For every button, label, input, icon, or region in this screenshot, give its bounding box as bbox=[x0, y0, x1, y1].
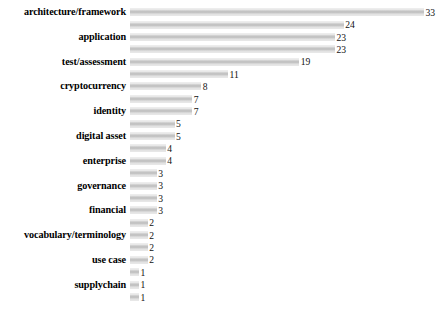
bar-value-label: 2 bbox=[149, 255, 154, 265]
bar bbox=[130, 46, 335, 53]
bar-row: cryptocurrency8 bbox=[0, 80, 444, 92]
bar-with-value: 5 bbox=[130, 132, 181, 139]
bar-value-label: 2 bbox=[149, 243, 154, 253]
bar-row: 24 bbox=[0, 18, 444, 30]
bar bbox=[130, 157, 166, 164]
bar bbox=[130, 269, 139, 276]
category-label: architecture/framework bbox=[24, 7, 126, 17]
bar-value-label: 7 bbox=[194, 106, 199, 116]
bar-value-label: 4 bbox=[167, 156, 172, 166]
bar-value-label: 2 bbox=[149, 218, 154, 228]
bar bbox=[130, 83, 201, 90]
bar-row: 3 bbox=[0, 167, 444, 179]
bar-value-label: 24 bbox=[345, 20, 355, 30]
bar-row: financial3 bbox=[0, 204, 444, 216]
bar-with-value: 3 bbox=[130, 194, 163, 201]
bar-row: 2 bbox=[0, 216, 444, 228]
bar bbox=[130, 21, 344, 28]
bar-value-label: 2 bbox=[149, 230, 154, 240]
bar bbox=[130, 95, 192, 102]
bar-value-label: 11 bbox=[230, 69, 239, 79]
bar bbox=[130, 58, 299, 65]
bar-with-value: 2 bbox=[130, 244, 154, 251]
bar-row: application23 bbox=[0, 31, 444, 43]
bar bbox=[130, 33, 335, 40]
bar bbox=[130, 108, 192, 115]
bar-with-value: 7 bbox=[130, 95, 199, 102]
bar-row: 4 bbox=[0, 142, 444, 154]
bar-row: 3 bbox=[0, 192, 444, 204]
bar-value-label: 5 bbox=[176, 131, 181, 141]
bar bbox=[130, 120, 175, 127]
bar-with-value: 23 bbox=[130, 46, 346, 53]
bar-value-label: 4 bbox=[167, 144, 172, 154]
bar-value-label: 8 bbox=[203, 82, 208, 92]
bar-value-label: 3 bbox=[158, 205, 163, 215]
horizontal-bar-chart: architecture/framework3324application232… bbox=[0, 0, 444, 313]
category-label: vocabulary/terminology bbox=[24, 230, 126, 240]
category-label: governance bbox=[77, 180, 126, 190]
bar-with-value: 3 bbox=[130, 170, 163, 177]
category-label: test/assessment bbox=[62, 57, 126, 67]
bar-row: 2 bbox=[0, 241, 444, 253]
bar bbox=[130, 182, 157, 189]
bar bbox=[130, 71, 228, 78]
bar-row: 23 bbox=[0, 43, 444, 55]
category-label: application bbox=[78, 32, 126, 42]
bar-with-value: 4 bbox=[130, 145, 172, 152]
bar bbox=[130, 293, 139, 300]
bar-row: supplychain1 bbox=[0, 278, 444, 290]
bar-value-label: 33 bbox=[426, 7, 436, 17]
bar-with-value: 1 bbox=[130, 269, 145, 276]
bar-with-value: 8 bbox=[130, 83, 208, 90]
bar bbox=[130, 256, 148, 263]
bar-value-label: 7 bbox=[194, 94, 199, 104]
bar bbox=[130, 170, 157, 177]
bar-value-label: 1 bbox=[140, 267, 145, 277]
bar-row: governance3 bbox=[0, 179, 444, 191]
bar-with-value: 23 bbox=[130, 33, 346, 40]
bar-row: enterprise4 bbox=[0, 155, 444, 167]
bar-with-value: 2 bbox=[130, 256, 154, 263]
bar bbox=[130, 207, 157, 214]
bar bbox=[130, 132, 175, 139]
bar-with-value: 2 bbox=[130, 219, 154, 226]
bar-value-label: 1 bbox=[140, 280, 145, 290]
bar-value-label: 19 bbox=[301, 57, 311, 67]
bar-row: 1 bbox=[0, 266, 444, 278]
bar-with-value: 24 bbox=[130, 21, 355, 28]
bar-row: 7 bbox=[0, 93, 444, 105]
bar-row: test/assessment19 bbox=[0, 56, 444, 68]
bar-with-value: 33 bbox=[130, 9, 435, 16]
bar-with-value: 3 bbox=[130, 182, 163, 189]
bar-row: use case2 bbox=[0, 254, 444, 266]
bar bbox=[130, 232, 148, 239]
bar-with-value: 1 bbox=[130, 293, 145, 300]
plot-area: architecture/framework3324application232… bbox=[0, 0, 444, 313]
bar-row: 1 bbox=[0, 291, 444, 303]
category-label: identity bbox=[93, 106, 126, 116]
bar-with-value: 11 bbox=[130, 71, 239, 78]
category-label: use case bbox=[92, 255, 126, 265]
bar bbox=[130, 194, 157, 201]
category-label: financial bbox=[89, 205, 126, 215]
bar-value-label: 3 bbox=[158, 181, 163, 191]
bar-with-value: 5 bbox=[130, 120, 181, 127]
bar-with-value: 7 bbox=[130, 108, 199, 115]
category-label: supplychain bbox=[74, 279, 126, 289]
bar-value-label: 1 bbox=[140, 292, 145, 302]
bar bbox=[130, 145, 166, 152]
bar-with-value: 19 bbox=[130, 58, 310, 65]
bar bbox=[130, 281, 139, 288]
bar bbox=[130, 219, 148, 226]
bar-row: architecture/framework33 bbox=[0, 6, 444, 18]
bar-value-label: 5 bbox=[176, 119, 181, 129]
bar-value-label: 3 bbox=[158, 168, 163, 178]
bar-value-label: 3 bbox=[158, 193, 163, 203]
bar-with-value: 1 bbox=[130, 281, 145, 288]
bar bbox=[130, 244, 148, 251]
bar-value-label: 23 bbox=[336, 32, 346, 42]
bar-row: identity7 bbox=[0, 105, 444, 117]
bar-with-value: 4 bbox=[130, 157, 172, 164]
bar-row: 5 bbox=[0, 117, 444, 129]
